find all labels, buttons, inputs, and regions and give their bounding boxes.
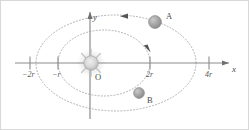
diagram-canvas — [1, 1, 249, 130]
y-axis-label: y — [93, 13, 97, 22]
x-axis-arrowhead — [222, 60, 229, 65]
x-axis-label: x — [232, 65, 236, 74]
body-a-label: A — [166, 12, 172, 21]
orbit-diagram-figure: y x −2r −r 2r 4r O A B — [0, 0, 249, 130]
y-axis-arrowhead — [87, 12, 92, 19]
origin-label: O — [95, 73, 101, 82]
tick-label-minus-r: −r — [52, 71, 61, 79]
tick-label-2r: 2r — [146, 71, 153, 79]
body-b-label: B — [147, 96, 153, 105]
body-b-marker — [134, 88, 145, 99]
outer-orbit-direction-arrow — [120, 14, 128, 19]
tick-label-minus-2r: −2r — [22, 71, 35, 79]
central-star — [84, 56, 98, 70]
body-a-marker — [149, 16, 162, 29]
tick-label-4r: 4r — [205, 71, 212, 79]
